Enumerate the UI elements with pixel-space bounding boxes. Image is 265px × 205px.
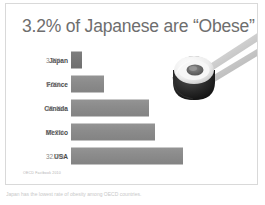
slide-container: 3.2% of Japanese are “Obese”: [0, 0, 265, 205]
table-row: France 9.5%: [6, 72, 258, 96]
table-row: USA 32.2%: [6, 144, 258, 168]
chart-source-note: OECD Factbook 2010: [23, 171, 61, 175]
bar-value-canada: 22.4%: [46, 105, 70, 112]
bar-value-japan: 3.2%: [46, 57, 70, 64]
table-row: Japan 3.2%: [6, 48, 258, 72]
slide-caption: Japan has the lowest rate of obesity amo…: [6, 191, 256, 197]
bar-chart-plot-area: Japan 3.2% France 9.5% Canada 22.4% Mexi…: [6, 48, 258, 168]
bar-japan: [71, 52, 82, 69]
bar-value-usa: 32.2%: [46, 153, 70, 160]
bar-value-mexico: 24.2%: [46, 129, 70, 136]
table-row: Mexico 24.2%: [6, 120, 258, 144]
bar-france: [71, 76, 104, 93]
bar-canada: [71, 100, 149, 117]
bar-value-france: 9.5%: [46, 81, 70, 88]
table-row: Canada 22.4%: [6, 96, 258, 120]
bar-mexico: [71, 124, 155, 141]
bar-usa: [71, 148, 183, 165]
presentation-slide: 3.2% of Japanese are “Obese”: [5, 3, 258, 185]
